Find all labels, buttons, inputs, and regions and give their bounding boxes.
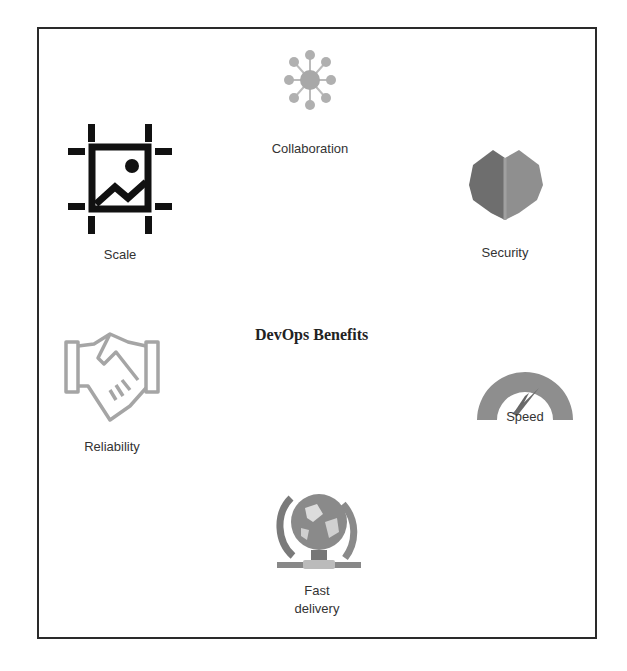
benefit-fast-delivery: Fast delivery — [262, 478, 372, 618]
benefit-label-line1: Fast — [262, 582, 372, 600]
benefit-label: Security — [450, 244, 560, 262]
benefit-collaboration: Collaboration — [250, 48, 370, 158]
network-nodes-icon — [278, 48, 342, 112]
benefit-label: Reliability — [52, 438, 172, 456]
handshake-icon — [60, 330, 164, 426]
shield-icon — [463, 140, 547, 224]
image-scale-icon — [60, 124, 180, 234]
benefit-security: Security — [450, 140, 560, 262]
benefit-label: Scale — [55, 246, 185, 264]
diagram-title: DevOps Benefits — [255, 326, 368, 344]
benefit-label: Collaboration — [250, 140, 370, 158]
benefit-reliability: Reliability — [52, 330, 172, 456]
benefit-label-line2: delivery — [262, 600, 372, 618]
benefit-label: Fast delivery — [262, 582, 372, 618]
benefit-speed: Speed — [470, 368, 580, 426]
benefit-scale: Scale — [55, 124, 185, 264]
globe-icon — [267, 478, 367, 578]
